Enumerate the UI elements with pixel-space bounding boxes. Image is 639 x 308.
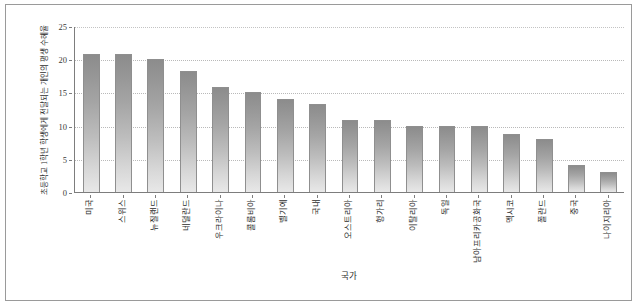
bar[interactable] — [374, 120, 391, 192]
y-axis-tick-label: 25 — [59, 23, 68, 32]
x-axis-tick-label: 이탈리아 — [398, 195, 430, 267]
y-axis-tick-label: 5 — [63, 156, 67, 165]
x-axis-tick-label-text: 폴란드 — [539, 199, 547, 223]
x-axis-tick-label-text: 우크라이나 — [215, 199, 223, 239]
x-axis-tick-label-text: 벨기에 — [280, 199, 288, 223]
bar-slot — [301, 27, 333, 192]
bar[interactable] — [568, 165, 585, 192]
bar-slot — [172, 27, 204, 192]
bar-slot — [107, 27, 139, 192]
x-axis-tick-label-text: 미국 — [86, 199, 94, 215]
bar-series — [75, 27, 624, 192]
bar[interactable] — [406, 126, 423, 192]
x-axis-tick-label-text: 독일 — [442, 199, 450, 215]
x-axis-title: 국가 — [74, 269, 624, 281]
bar[interactable] — [245, 92, 262, 192]
bar-slot — [204, 27, 236, 192]
x-axis-tick-label-text: 나이지리아 — [604, 199, 612, 239]
plot-area — [74, 27, 624, 193]
bar[interactable] — [115, 54, 132, 192]
y-axis-tick-mark — [69, 127, 72, 128]
x-axis-tick-label: 국내 — [300, 195, 332, 267]
x-axis-tick-label: 중국 — [559, 195, 591, 267]
bar[interactable] — [212, 87, 229, 192]
y-axis-tick-mark — [69, 27, 72, 28]
x-axis-tick-label: 벨기에 — [268, 195, 300, 267]
bar-slot — [560, 27, 592, 192]
x-axis-tick-label: 오스트리아 — [333, 195, 365, 267]
y-axis-tick-labels: 0510152025 — [6, 27, 72, 193]
y-axis-tick-mark — [69, 93, 72, 94]
bar-slot — [593, 27, 625, 192]
x-axis-tick-labels: 미국스위스뉴질랜드네덜란드우크라이나콜롬비아벨기에국내오스트리아헝가리이탈리아독… — [74, 195, 624, 267]
x-axis-tick-label: 뉴질랜드 — [139, 195, 171, 267]
bar-slot — [496, 27, 528, 192]
x-axis-tick-label: 폴란드 — [527, 195, 559, 267]
x-axis-tick-label-text: 스위스 — [118, 199, 126, 223]
x-axis-tick-label: 네덜란드 — [171, 195, 203, 267]
bar-slot — [528, 27, 560, 192]
bar[interactable] — [536, 139, 553, 192]
y-axis-tick-label: 15 — [59, 89, 68, 98]
y-axis-tick-mark — [69, 193, 72, 194]
bar[interactable] — [147, 59, 164, 192]
x-axis-tick-label-text: 오스트리아 — [345, 199, 353, 239]
x-axis-tick-label: 멕시코 — [495, 195, 527, 267]
bar-slot — [463, 27, 495, 192]
bar-slot — [334, 27, 366, 192]
y-axis-tick-label: 20 — [59, 56, 68, 65]
bar[interactable] — [600, 172, 617, 192]
x-axis-tick-label-text: 국내 — [313, 199, 321, 215]
bar-slot — [366, 27, 398, 192]
x-axis-tick-label: 우크라이나 — [203, 195, 235, 267]
bar[interactable] — [471, 126, 488, 192]
x-axis-tick-label-text: 헝가리 — [377, 199, 385, 223]
x-axis-tick-label-text: 남아프리카공화국 — [474, 199, 482, 263]
figure-border: 초등학교 1학년 학생에게 전달되는 개인의 평생 수혜율 0510152025… — [5, 4, 632, 301]
x-axis-tick-label: 스위스 — [106, 195, 138, 267]
y-axis-tick-mark — [69, 160, 72, 161]
x-axis-tick-label-text: 네덜란드 — [183, 199, 191, 231]
x-axis-tick-label: 남아프리카공화국 — [462, 195, 494, 267]
x-axis-tick-label: 헝가리 — [365, 195, 397, 267]
bar[interactable] — [180, 71, 197, 192]
x-axis-tick-label-text: 이탈리아 — [410, 199, 418, 231]
x-axis-tick-label: 미국 — [74, 195, 106, 267]
x-axis-tick-label: 나이지리아 — [592, 195, 624, 267]
bar-slot — [399, 27, 431, 192]
bar-slot — [75, 27, 107, 192]
x-axis-tick-label-text: 콜롬비아 — [248, 199, 256, 231]
x-axis-tick-label-text: 멕시코 — [507, 199, 515, 223]
x-axis-tick-label-text: 뉴질랜드 — [151, 199, 159, 231]
x-axis-tick-label: 독일 — [430, 195, 462, 267]
x-axis-tick-label-text: 중국 — [571, 199, 579, 215]
bar[interactable] — [439, 126, 456, 192]
y-axis-tick-label: 0 — [63, 189, 67, 198]
bar[interactable] — [277, 99, 294, 192]
bar-slot — [269, 27, 301, 192]
bar-slot — [431, 27, 463, 192]
bar-slot — [237, 27, 269, 192]
bar[interactable] — [342, 120, 359, 192]
bar[interactable] — [309, 104, 326, 192]
bar[interactable] — [503, 134, 520, 192]
x-axis-tick-label: 콜롬비아 — [236, 195, 268, 267]
bar-slot — [140, 27, 172, 192]
chart-figure: 초등학교 1학년 학생에게 전달되는 개인의 평생 수혜율 0510152025… — [0, 0, 639, 308]
bar[interactable] — [83, 54, 100, 192]
y-axis-tick-label: 10 — [59, 122, 68, 131]
y-axis-tick-mark — [69, 60, 72, 61]
